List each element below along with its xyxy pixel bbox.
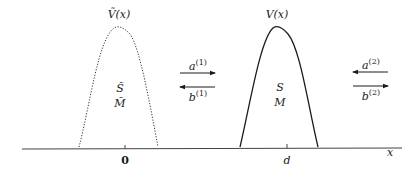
right-barrier-m-label: M [274, 97, 285, 108]
amplitude-a2-label: a(2) [362, 58, 380, 71]
right-barrier-s-label: S [276, 82, 284, 93]
b2-base: b [362, 90, 369, 103]
right-curve-label: V(x) [266, 9, 289, 20]
diagram-canvas [0, 0, 418, 179]
left-barrier-s-label: S̃ [116, 83, 124, 94]
left-curve-label: Ṽ(x) [108, 9, 131, 20]
left-barrier-m-label: M̃ [114, 98, 125, 109]
b1-sup: (1) [196, 89, 207, 98]
amplitude-a1-label: a(1) [189, 59, 207, 72]
position-d-label: d [283, 155, 290, 166]
b1-base: b [189, 91, 196, 104]
amplitude-b2-label: b(2) [362, 89, 380, 102]
x-axis-line [22, 148, 402, 149]
a2-sup: (2) [369, 57, 380, 66]
b2-sup: (2) [369, 88, 380, 97]
a1-sup: (1) [196, 58, 207, 67]
x-axis-label: x [387, 147, 393, 158]
amplitude-b1-label: b(1) [189, 90, 207, 103]
position-zero-label: 0 [121, 155, 129, 166]
